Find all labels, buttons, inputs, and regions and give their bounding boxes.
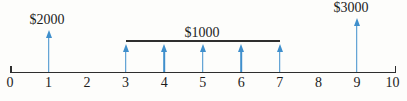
cash-flow-arrow-t3	[122, 44, 130, 73]
axis-end-tick-right	[395, 66, 397, 72]
axis-tick-2: 2	[84, 75, 91, 90]
payment-label-2000: $2000	[30, 13, 65, 27]
arrow-shaft	[279, 51, 281, 73]
arrow-shaft	[241, 51, 243, 73]
axis-tick-6: 6	[238, 75, 245, 90]
group-bracket-line	[126, 40, 281, 41]
arrow-shaft	[356, 25, 358, 72]
cash-flow-arrow-t9	[353, 18, 361, 72]
payment-label-1000: $1000	[185, 26, 220, 40]
axis-end-tick-left	[10, 66, 12, 72]
axis-tick-0: 0	[7, 75, 14, 90]
axis-tick-1: 1	[45, 75, 52, 90]
arrow-shaft	[163, 51, 165, 73]
arrow-shaft	[202, 51, 204, 73]
cash-flow-diagram: $2000 $1000 $3000 0 1 2 3 4 5 6 7 8	[0, 0, 407, 101]
time-axis-line	[10, 72, 396, 74]
cash-flow-arrow-t6	[237, 44, 245, 73]
cash-flow-arrow-t7	[276, 44, 284, 73]
axis-tick-8: 8	[315, 75, 322, 90]
axis-tick-7: 7	[276, 75, 283, 90]
arrow-shaft	[125, 51, 127, 73]
axis-tick-9: 9	[353, 75, 360, 90]
axis-tick-4: 4	[161, 75, 168, 90]
axis-tick-5: 5	[199, 75, 206, 90]
arrow-shaft	[48, 37, 50, 72]
cash-flow-arrow-t1	[45, 30, 53, 72]
axis-tick-10: 10	[386, 75, 400, 90]
payment-label-3000: $3000	[334, 1, 369, 15]
axis-tick-3: 3	[122, 75, 129, 90]
cash-flow-arrow-t4	[160, 44, 168, 73]
cash-flow-arrow-t5	[199, 44, 207, 73]
